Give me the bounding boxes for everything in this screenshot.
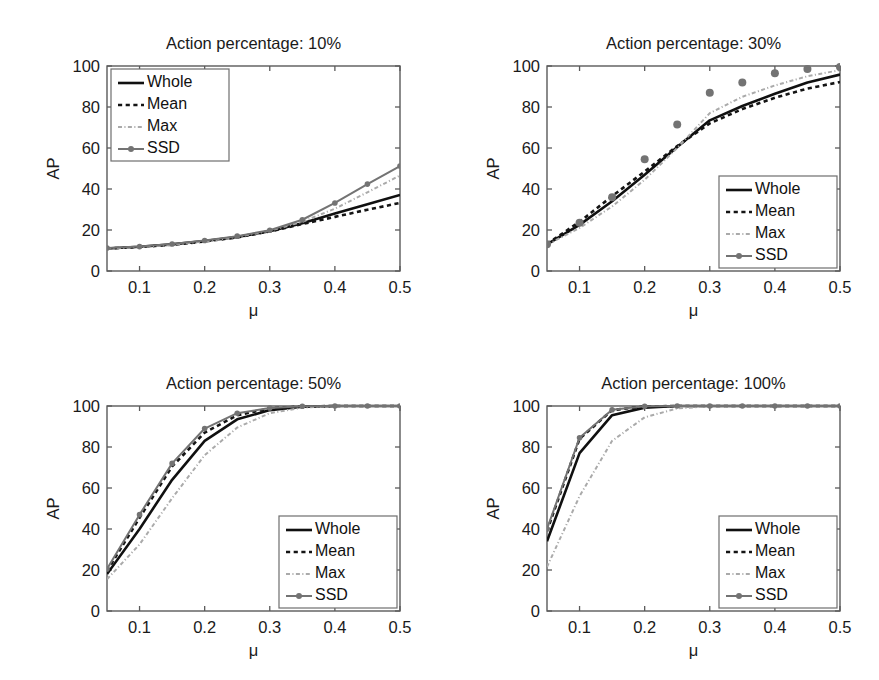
legend-label-whole: Whole [147, 73, 192, 90]
y-tick-label: 80 [522, 98, 540, 116]
series-marker-ssd [300, 403, 306, 409]
x-tick-label: 0.3 [698, 618, 721, 636]
y-tick-label: 40 [82, 180, 100, 198]
legend-label-ssd: SSD [315, 586, 348, 603]
series-line-max [107, 175, 400, 248]
series-marker-ssd [267, 405, 273, 411]
y-tick-label: 80 [82, 438, 100, 456]
y-tick-label: 100 [72, 57, 100, 75]
x-axis-label: μ [689, 301, 699, 319]
series-marker-ssd [202, 238, 208, 244]
series-marker-ssd [803, 65, 811, 73]
series-line-mean [547, 406, 840, 531]
legend: WholeMeanMaxSSD [719, 176, 837, 268]
x-tick-label: 0.5 [389, 618, 412, 636]
series-marker-ssd [609, 407, 615, 413]
series-marker-ssd [771, 69, 779, 77]
chart-panel-action-10: Action percentage: 10%0204060801000.10.2… [0, 0, 440, 340]
x-axis-label: μ [249, 641, 259, 659]
y-axis-label: AP [44, 497, 62, 519]
y-tick-label: 0 [91, 262, 100, 280]
legend-label-mean: Mean [755, 202, 795, 219]
y-tick-label: 60 [82, 479, 100, 497]
series-marker-ssd [137, 512, 143, 518]
y-tick-label: 80 [522, 438, 540, 456]
legend-label-mean: Mean [315, 542, 355, 559]
legend-label-ssd: SSD [755, 586, 788, 603]
series-marker-ssd [300, 217, 306, 223]
legend-marker-ssd [736, 253, 742, 259]
x-tick-label: 0.4 [763, 278, 786, 296]
x-tick-label: 0.2 [193, 278, 216, 296]
series-marker-ssd [234, 233, 240, 239]
series-marker-ssd [805, 403, 811, 409]
x-tick-label: 0.3 [258, 278, 281, 296]
series-marker-ssd [397, 163, 403, 169]
x-tick-label: 0.4 [763, 618, 786, 636]
series-marker-ssd [707, 403, 713, 409]
legend-label-ssd: SSD [755, 246, 788, 263]
legend-label-ssd: SSD [147, 139, 180, 156]
y-tick-label: 20 [522, 561, 540, 579]
panel-title: Action percentage: 50% [166, 374, 342, 392]
series-marker-ssd [104, 245, 110, 251]
legend-label-mean: Mean [147, 95, 187, 112]
legend: WholeMeanMaxSSD [279, 516, 397, 608]
legend-label-max: Max [315, 564, 345, 581]
legend-marker-ssd [296, 593, 302, 599]
series-line-whole [107, 195, 400, 249]
series-marker-ssd [772, 403, 778, 409]
series-marker-ssd [267, 227, 273, 233]
series-marker-ssd [738, 78, 746, 86]
series-marker-ssd [202, 426, 208, 432]
y-tick-label: 20 [82, 561, 100, 579]
x-axis-label: μ [689, 641, 699, 659]
series-marker-ssd [169, 241, 175, 247]
series-marker-ssd [608, 193, 616, 201]
x-tick-label: 0.3 [698, 278, 721, 296]
series-marker-ssd [706, 89, 714, 97]
plot-svg: Action percentage: 100%0204060801000.10.… [440, 340, 879, 680]
series-marker-ssd [365, 181, 371, 187]
x-tick-label: 0.2 [633, 618, 656, 636]
x-tick-label: 0.1 [128, 278, 151, 296]
y-tick-label: 80 [82, 98, 100, 116]
data-layer [104, 163, 403, 251]
x-tick-label: 0.5 [829, 618, 852, 636]
series-marker-ssd [234, 410, 240, 416]
y-axis-label: AP [484, 157, 502, 179]
legend: WholeMeanMaxSSD [111, 69, 229, 161]
x-axis-label: μ [249, 301, 259, 319]
series-marker-ssd [836, 63, 844, 71]
y-tick-label: 100 [72, 397, 100, 415]
series-marker-ssd [544, 526, 550, 532]
x-tick-label: 0.2 [633, 278, 656, 296]
series-marker-ssd [576, 219, 584, 227]
chart-panel-action-50: Action percentage: 50%0204060801000.10.2… [0, 340, 440, 680]
legend-label-mean: Mean [755, 542, 795, 559]
y-axis-label: AP [484, 497, 502, 519]
series-marker-ssd [137, 244, 143, 250]
x-tick-label: 0.4 [323, 278, 346, 296]
y-tick-label: 20 [522, 221, 540, 239]
y-tick-label: 40 [522, 180, 540, 198]
legend: WholeMeanMaxSSD [719, 516, 837, 608]
x-tick-label: 0.2 [193, 618, 216, 636]
panel-title: Action percentage: 100% [601, 374, 786, 392]
y-tick-label: 100 [512, 57, 540, 75]
y-axis-label: AP [44, 157, 62, 179]
series-marker-ssd [397, 403, 403, 409]
y-tick-label: 60 [522, 479, 540, 497]
x-tick-label: 0.5 [389, 278, 412, 296]
y-tick-label: 40 [522, 520, 540, 538]
figure-canvas: Action percentage: 10%0204060801000.10.2… [0, 0, 879, 680]
y-tick-label: 100 [512, 397, 540, 415]
y-tick-label: 20 [82, 221, 100, 239]
series-marker-ssd [365, 403, 371, 409]
series-marker-ssd [104, 566, 110, 572]
series-marker-ssd [674, 403, 680, 409]
x-tick-label: 0.1 [568, 618, 591, 636]
series-marker-ssd [641, 155, 649, 163]
legend-marker-ssd [736, 593, 742, 599]
series-line-ssd [547, 406, 840, 529]
